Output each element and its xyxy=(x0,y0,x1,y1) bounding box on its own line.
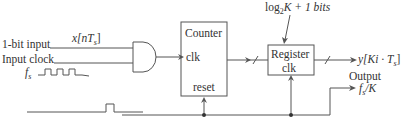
register-width-label: log2K + 1 bits xyxy=(265,1,330,18)
reset-pulse-waveform xyxy=(27,104,143,112)
output-freq-label: fs/K xyxy=(359,82,376,99)
output-clock-line xyxy=(330,88,353,115)
junction-dot xyxy=(289,113,293,117)
junction-dot xyxy=(202,113,206,117)
counter-reset-label: reset xyxy=(193,81,215,93)
and-gate xyxy=(133,42,156,72)
clock-waveform xyxy=(38,69,89,76)
output-signal-label: y[Ki · Ts] xyxy=(358,53,400,70)
output-label: Output xyxy=(349,70,381,82)
register-title: Register xyxy=(271,48,309,60)
clock-freq-label: fs xyxy=(25,66,31,83)
clock-input-label: Input clock xyxy=(2,53,54,65)
counter-title: Counter xyxy=(185,27,222,39)
data-signal-label: x[nTs] xyxy=(72,32,101,49)
counter-clk-label: clk xyxy=(186,51,200,63)
data-input-label: 1-bit input xyxy=(2,38,50,50)
register-clk-label: clk xyxy=(282,62,296,74)
diagram-lines xyxy=(0,0,404,121)
